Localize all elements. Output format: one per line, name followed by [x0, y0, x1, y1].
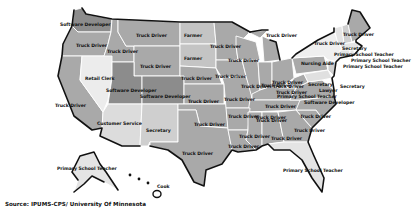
label-rhode-island: Primary School Teacher — [351, 58, 411, 63]
label-arizona: Customer Service — [97, 121, 142, 126]
state-arkansas — [226, 108, 250, 130]
label-florida: Primary School Teacher — [283, 168, 343, 173]
state-hawaii-islet — [129, 174, 132, 177]
label-oklahoma: Truck Driver — [194, 122, 225, 127]
label-maine: Truck Driver — [343, 32, 374, 37]
label-hawaii: Cook — [157, 184, 170, 189]
label-nevada: Retail Clerk — [85, 76, 114, 81]
state-hawaii-islet — [138, 178, 141, 181]
state-new-mexico — [140, 104, 178, 146]
label-dc: Software Developer — [304, 100, 355, 105]
label-oregon: Truck Driver — [76, 43, 107, 48]
source-caption: Source: IPUMS-CPS/ University Of Minneso… — [5, 201, 146, 207]
state-hawaii-islet — [147, 182, 150, 185]
label-kentucky: Truck Driver — [265, 104, 296, 109]
label-south-dakota: Farmer — [184, 56, 202, 61]
label-delaware: Secretary — [340, 84, 365, 89]
label-mississippi: Truck Driver — [239, 134, 270, 139]
label-new-hampshire: Secretary — [342, 46, 367, 51]
label-alaska: Primary School Teacher — [57, 166, 117, 171]
label-maryland: Lawyer — [319, 88, 337, 93]
label-montana: Truck Driver — [136, 33, 167, 38]
label-nebraska: Truck Driver — [181, 76, 212, 81]
label-wyoming: Truck Driver — [140, 64, 171, 69]
label-kansas: Truck Driver — [188, 99, 219, 104]
label-washington: Software Developer — [60, 22, 111, 27]
label-pennsylvania: Truck Driver — [272, 80, 303, 85]
label-new-jersey: Secretary — [308, 82, 333, 87]
label-south-carolina: Truck Driver — [294, 128, 325, 133]
label-colorado: Software Developer — [140, 94, 191, 99]
label-missouri: Truck Driver — [224, 97, 255, 102]
label-connecticut: Primary School Teacher — [343, 64, 403, 69]
label-minnesota: Truck Driver — [210, 44, 241, 49]
label-north-dakota: Farmer — [184, 33, 202, 38]
label-alabama: Truck Driver — [256, 118, 287, 123]
label-new-mexico: Secretary — [146, 128, 171, 133]
label-idaho: Truck Driver — [107, 49, 138, 54]
label-georgia: Truck Driver — [271, 136, 302, 141]
label-iowa: Truck Driver — [215, 74, 246, 79]
state-hawaii-island — [153, 191, 161, 198]
label-vermont: Truck Driver — [314, 41, 345, 46]
label-louisiana: Truck Driver — [228, 144, 259, 149]
label-wisconsin: Truck Driver — [228, 58, 259, 63]
state-washington — [72, 8, 112, 32]
label-new-york: Nursing Aide — [301, 61, 334, 66]
label-virginia: Primary School Teacher — [277, 94, 337, 99]
label-michigan: Truck Driver — [266, 33, 297, 38]
us-occupation-map: Software Developer Truck Driver Truck Dr… — [0, 0, 419, 214]
label-california: Truck Driver — [55, 103, 86, 108]
label-texas: Truck Driver — [182, 151, 213, 156]
label-north-carolina: Truck Driver — [300, 114, 331, 119]
label-utah: Software Developer — [106, 88, 157, 93]
label-massachusetts: Primary School Teacher — [334, 52, 394, 57]
state-wyoming — [134, 46, 180, 76]
